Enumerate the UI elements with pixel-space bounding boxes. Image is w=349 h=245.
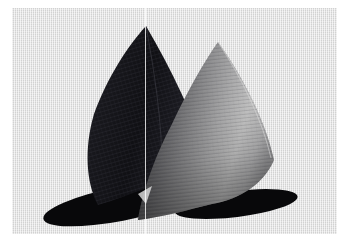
plot-canvas	[12, 8, 337, 234]
figure-container	[0, 0, 349, 245]
surface-scene	[12, 8, 337, 234]
